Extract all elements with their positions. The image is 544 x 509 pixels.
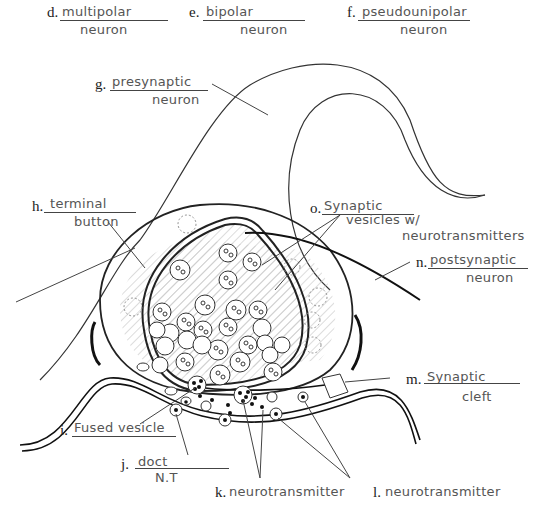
label-m-answer-line2: cleft (462, 389, 492, 404)
label-e-letter: e. (189, 4, 199, 21)
label-g-underline (110, 90, 208, 91)
label-g-answer[interactable]: presynaptic (112, 74, 191, 89)
label-l-letter: l. (373, 484, 381, 501)
label-f-answer-line2: neuron (400, 22, 448, 37)
label-k-letter: k. (215, 484, 226, 501)
label-d-answer-line2: neuron (80, 22, 128, 37)
label-i-letter: i. (60, 422, 68, 439)
label-f-answer[interactable]: pseudounipolar (362, 4, 467, 19)
label-h-answer-line2: button (74, 214, 119, 229)
label-d-underline (60, 20, 168, 21)
label-f-underline (358, 20, 470, 21)
label-h-underline (44, 212, 136, 213)
label-e-answer-line2: neuron (240, 22, 288, 37)
label-e-underline (203, 20, 305, 21)
label-j-underline (135, 468, 229, 469)
label-o-answer-line3: neurotransmitters (402, 228, 525, 243)
label-g-answer-line2: neuron (152, 92, 200, 107)
label-j-answer-line2: N.T (155, 470, 178, 485)
label-g-letter: g. (95, 76, 106, 93)
label-n-underline (428, 268, 528, 269)
label-n-answer-line2: neuron (466, 270, 514, 285)
label-m-underline (424, 383, 520, 384)
label-o-letter: o. (310, 200, 321, 217)
label-d-letter: d. (47, 4, 58, 21)
label-i-underline (72, 436, 176, 437)
label-m-answer[interactable]: Synaptic (427, 369, 486, 384)
label-j-answer[interactable]: doct (138, 454, 168, 469)
label-o-answer[interactable]: Synaptic (324, 198, 383, 213)
label-o-answer-line2: vesicles w/ (346, 212, 420, 227)
label-n-letter: n. (416, 254, 427, 271)
label-f-letter: f. (347, 4, 356, 21)
label-l-answer[interactable]: neurotransmitter (385, 484, 501, 499)
label-k-answer[interactable]: neurotransmitter (229, 484, 345, 499)
label-h-letter: h. (32, 198, 43, 215)
label-n-answer[interactable]: postsynaptic (430, 252, 516, 267)
label-i-answer[interactable]: Fused vesicle (74, 420, 165, 435)
label-d-answer[interactable]: multipolar (62, 4, 131, 19)
label-m-letter: m. (406, 371, 421, 388)
label-j-letter: j. (121, 456, 129, 473)
label-h-answer[interactable]: terminal (50, 196, 107, 211)
label-e-answer[interactable]: bipolar (206, 4, 253, 19)
